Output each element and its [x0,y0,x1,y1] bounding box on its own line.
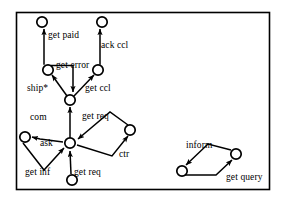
node-mid-left [43,65,53,75]
label-inform: inform [186,141,212,151]
node-hub [65,138,75,148]
node-right-right [231,149,241,159]
label-ask: ask [40,139,53,149]
petri-net-figure: get paid ack ccl get error ship* get ccl… [0,0,284,202]
label-get-req-top: get req [82,112,109,122]
node-ctr [125,125,135,135]
label-ctr: ctr [119,150,129,160]
node-top-left [37,17,47,27]
label-com: com [30,113,47,123]
node-top-right [97,17,107,27]
edge-get-req-2 [70,151,71,174]
node-right-left [177,166,187,176]
label-get-ccl: get ccl [85,84,111,94]
node-com [20,132,30,142]
node-junction [65,95,75,105]
label-get-req-bottom: get req [74,168,101,178]
label-get-error: get error [56,61,89,71]
label-ship-star: ship* [27,84,48,94]
edge-get-query [184,160,232,175]
edge-ship-star [52,75,67,96]
label-ack-ccl: ack ccl [101,41,128,51]
label-get-query: get query [226,173,263,183]
label-get-paid: get paid [48,31,79,41]
node-mid-right [93,65,103,75]
label-get-inf: get inf [25,168,50,178]
